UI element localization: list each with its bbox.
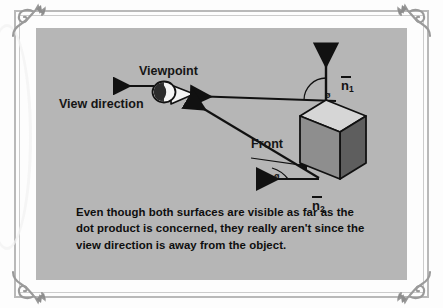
n1-symbol: n	[341, 78, 349, 93]
angle-symbol-1: ø	[325, 91, 331, 100]
cube-shape	[300, 100, 366, 179]
figure-page: Viewpoint View direction Front n1 n2 ø ø…	[0, 0, 443, 308]
view-direction-label: View direction	[59, 98, 144, 111]
figure-caption: Even though both surfaces are visible as…	[76, 204, 368, 253]
figure-panel: Viewpoint View direction Front n1 n2 ø ø…	[36, 28, 407, 280]
eye-icon	[153, 82, 195, 105]
front-label: Front	[251, 138, 283, 151]
angle-symbol-2: ø	[274, 172, 280, 181]
viewpoint-label: Viewpoint	[139, 65, 198, 78]
sight-line-upper	[192, 96, 336, 101]
normal-vector-n1-label: n1	[341, 76, 354, 92]
angle-arc-1	[304, 78, 326, 100]
n1-subscript: 1	[349, 84, 354, 94]
front-pointer-arrow-icon	[251, 158, 306, 166]
